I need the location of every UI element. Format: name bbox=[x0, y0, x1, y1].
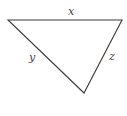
side-label-z: z bbox=[108, 50, 115, 63]
triangle bbox=[8, 20, 122, 93]
side-label-x: x bbox=[68, 5, 75, 18]
side-label-y: y bbox=[28, 51, 36, 64]
triangle-diagram: x y z bbox=[0, 0, 127, 116]
